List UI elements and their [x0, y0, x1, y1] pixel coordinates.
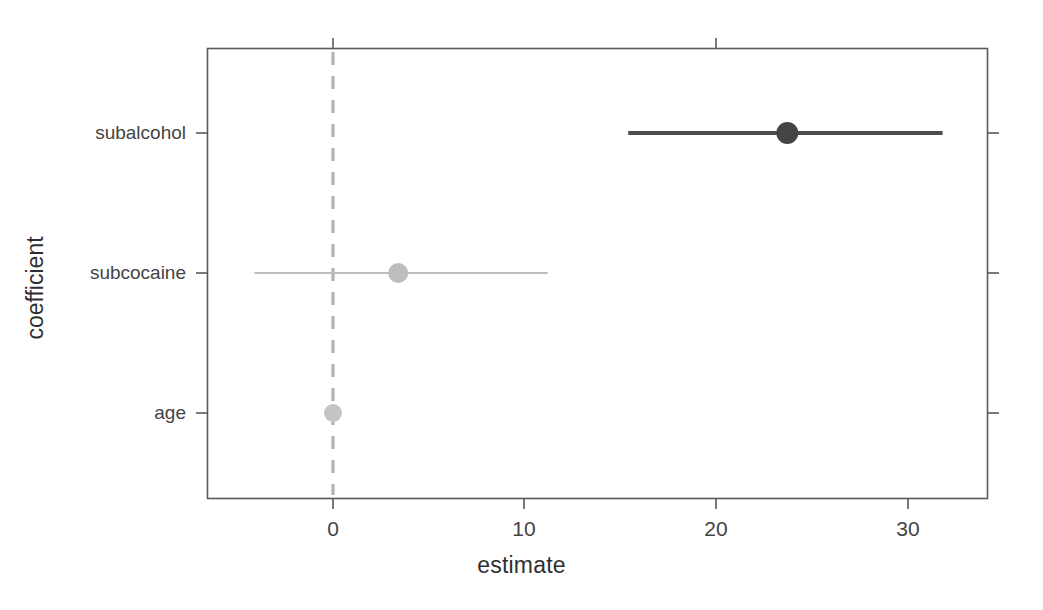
y-tick-label-subalcohol: subalcohol [0, 122, 186, 144]
x-tick-label-0: 0 [327, 517, 339, 541]
x-tick-label-20: 20 [704, 517, 727, 541]
series-point-subalcohol [628, 122, 942, 144]
coefficient-plot-figure: 0 10 20 30 subalcohol subcocaine age est… [0, 0, 1043, 610]
estimate-marker-subcocaine [388, 263, 408, 283]
y-tick-label-subcocaine: subcocaine [0, 262, 186, 284]
estimate-marker-subalcohol [776, 122, 798, 144]
estimate-marker-age [324, 404, 342, 422]
x-axis-title: estimate [0, 552, 1043, 579]
x-axis-ticks [333, 499, 908, 510]
x-tick-label-30: 30 [896, 517, 919, 541]
series-point-age [324, 404, 342, 422]
x-tick-label-10: 10 [512, 517, 535, 541]
x-axis-top-ticks [333, 38, 716, 49]
series-point-subcocaine [254, 263, 547, 283]
y-tick-label-age: age [0, 402, 186, 424]
